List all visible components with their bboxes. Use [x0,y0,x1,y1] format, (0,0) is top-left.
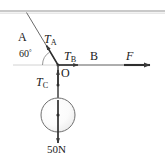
label-angle-value: 60 [19,48,29,59]
label-tension-a-subscript: A [51,38,57,47]
label-tension-a-symbol: T [44,32,51,46]
degree-icon: ° [29,48,32,55]
label-angle-60: 60° [19,49,32,59]
label-tension-b-subscript: B [71,55,76,64]
label-tension-b: TB [64,50,76,64]
label-junction-o: O [61,67,70,79]
label-tension-b-symbol: T [64,49,71,63]
label-tension-c-subscript: C [43,81,48,90]
label-anchor-a: A [18,31,27,43]
force-diagram-canvas [0,0,165,162]
label-weight-50n: 50N [47,144,66,155]
label-tension-c-symbol: T [36,75,43,89]
label-point-b: B [90,50,98,62]
tension-a-arrow [47,46,59,66]
label-applied-force-f: F [126,50,133,62]
force-diagram-figure: A TA 60° TB B F O TC 50N [0,0,165,162]
label-tension-a: TA [44,33,57,47]
label-tension-c: TC [36,76,48,90]
angle-arc [43,52,50,65]
